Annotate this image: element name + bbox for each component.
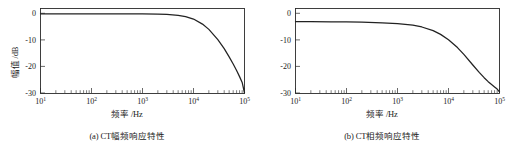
x-tick-label: 102 [86,96,97,107]
x-axis-label-b: 频率 /Hz [255,110,509,119]
y-tick-label: -10 [25,36,36,45]
x-tick-label: 105 [494,96,505,107]
y-axis-ticks-a [41,13,46,93]
magnitude-curve [41,14,245,93]
x-tick-label: 104 [188,96,199,107]
y-tick-label: 0 [287,9,291,18]
phase-curve [296,22,500,92]
figure-container: 0 -10 -20 -30 101 102 103 104 [0,0,509,147]
y-tick-labels-a: 0 -10 -20 -30 [25,9,36,98]
x-tick-label: 101 [35,96,46,107]
x-tick-label: 104 [443,96,454,107]
x-axis-ticks-a [41,88,245,93]
y-tick-label: -20 [25,62,36,71]
y-axis-label-a: 幅值 /dB [11,47,20,78]
x-tick-label: 103 [137,96,148,107]
x-tick-labels-b: 101 102 103 104 105 [290,96,505,107]
caption-a: (a) CT幅频响应特性 [0,129,254,141]
y-tick-label: 0 [32,9,36,18]
y-tick-label: -20 [280,62,291,71]
caption-b: (b) CT相频响应特性 [255,129,509,141]
x-axis-label-a: 频率 /Hz [0,110,254,119]
y-axis-ticks-b [296,13,301,93]
x-tick-labels-a: 101 102 103 104 105 [35,96,250,107]
y-tick-labels-b: 0 -10 -20 -30 [280,9,291,98]
plot-frame-a [41,9,245,94]
x-axis-ticks-b [296,88,500,93]
magnitude-response-plot: 0 -10 -20 -30 101 102 103 104 [0,0,254,147]
x-tick-label: 105 [239,96,250,107]
y-tick-label: -10 [280,36,291,45]
phase-response-plot: 0 -10 -20 -30 101 102 103 104 [255,0,509,147]
chart-panel-a: 0 -10 -20 -30 101 102 103 104 [0,0,254,147]
x-tick-label: 102 [341,96,352,107]
x-tick-label: 101 [290,96,301,107]
chart-panel-b: 0 -10 -20 -30 101 102 103 104 [255,0,509,147]
x-tick-label: 103 [392,96,403,107]
